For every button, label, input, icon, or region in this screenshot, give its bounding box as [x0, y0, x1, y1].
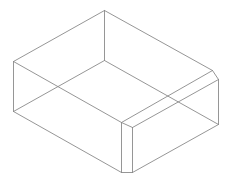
top-back-right-edge — [105, 11, 213, 71]
box-wireframe-svg — [0, 0, 231, 180]
bottom-back-left-edge — [14, 61, 105, 112]
wireframe-box-diagram — [0, 0, 231, 180]
bottom-back-right-edge — [105, 61, 219, 125]
chamfer-top-right — [213, 71, 219, 80]
top-front-left-edge — [14, 62, 122, 123]
chamfer-top-front — [122, 123, 133, 128]
chamfer-face-top-edge — [133, 80, 219, 128]
bottom-front-left-edge — [14, 112, 122, 173]
top-front-right-edge — [122, 71, 213, 123]
bottom-front-right-edge — [133, 125, 219, 173]
top-left-edge — [14, 11, 105, 62]
